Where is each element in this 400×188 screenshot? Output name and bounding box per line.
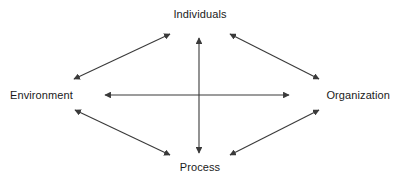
node-label-environment: Environment: [10, 89, 73, 102]
arrow-environment-process: [75, 110, 170, 155]
arrow-environment-individuals: [74, 34, 170, 79]
node-label-individuals: Individuals: [0, 8, 400, 21]
arrow-process-organization: [230, 110, 319, 155]
relationship-diagram: Individuals Environment Organization Pro…: [0, 0, 400, 188]
node-label-organization: Organization: [326, 89, 390, 102]
arrow-individuals-organization: [230, 34, 319, 79]
node-label-process: Process: [0, 161, 400, 174]
